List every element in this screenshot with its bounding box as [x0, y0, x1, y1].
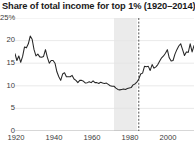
x-tick-label-1980: 1980	[122, 133, 139, 142]
gridlines-group	[15, 18, 194, 108]
plot-area	[15, 18, 194, 131]
y-tick-label-5: 5	[1, 104, 15, 112]
chart-title: Share of total income for top 1% (1920–2…	[2, 1, 195, 12]
x-axis-labels: 1920 1940 1960 1980 2000	[0, 133, 195, 145]
chart-figure: Share of total income for top 1% (1920–2…	[0, 0, 195, 155]
x-tick-label-1940: 1940	[46, 133, 63, 142]
shaded-band-rect	[114, 18, 137, 131]
x-tick-label-1920: 1920	[8, 133, 25, 142]
y-tick-label-10: 10	[1, 82, 15, 90]
x-tick-label-1960: 1960	[84, 133, 101, 142]
y-tick-label-20: 20	[1, 36, 15, 44]
x-tick-label-2000: 2000	[160, 133, 177, 142]
chart-plot-svg	[15, 18, 194, 131]
y-axis-labels: 25% 20 15 10 5 0	[0, 0, 15, 155]
y-tick-label-15: 15	[1, 59, 15, 67]
